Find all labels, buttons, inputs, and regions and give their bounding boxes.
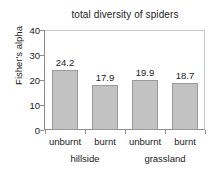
y-tick-label: 0 [10,125,40,136]
x-tick-label: burnt [162,136,208,147]
bar-value-label: 24.2 [45,57,85,68]
bar-slot: 24.2 [45,30,85,130]
bar[interactable] [172,83,198,130]
y-tick-mark [40,55,44,56]
y-tick-label: 40 [10,25,40,36]
bars-layer: 24.217.919.918.7 [45,30,205,130]
y-tick-mark [40,105,44,106]
y-tick-mark [40,130,44,131]
bar[interactable] [52,70,78,131]
x-tick-mark [85,130,86,134]
bar[interactable] [92,85,118,130]
bar-slot: 17.9 [85,30,125,130]
bar-slot: 18.7 [165,30,205,130]
x-tick-mark [125,130,126,134]
y-tick-mark [40,30,44,31]
y-tick-label: 10 [10,100,40,111]
y-tick-mark [40,80,44,81]
x-group-label: hillside [45,153,125,164]
x-tick-mark [205,130,206,134]
x-group-label: grassland [125,153,205,164]
y-tick-label: 20 [10,75,40,86]
x-tick-mark [165,130,166,134]
bar-value-label: 17.9 [85,72,125,83]
x-tick-mark [45,130,46,134]
chart-title: total diversity of spiders [44,9,206,20]
bar-value-label: 19.9 [125,67,165,78]
bar-slot: 19.9 [125,30,165,130]
bar-chart: total diversity of spiders Fisher's alph… [0,0,219,172]
y-tick-label: 30 [10,50,40,61]
bar-value-label: 18.7 [165,70,205,81]
bar[interactable] [132,80,158,130]
